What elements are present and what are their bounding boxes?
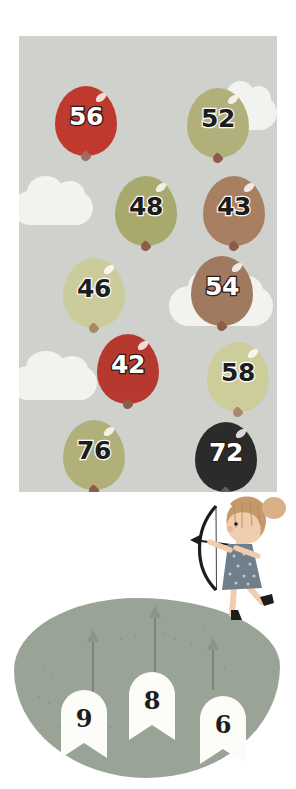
- hair-bun: [262, 497, 286, 519]
- ground-arrow-2-head-icon: [149, 605, 161, 618]
- balloon-52[interactable]: 52: [187, 88, 249, 162]
- balloon-56[interactable]: 56: [55, 86, 117, 160]
- bow-icon: [200, 506, 217, 590]
- balloon-46[interactable]: 46: [63, 258, 125, 332]
- balloon-number: 46: [63, 274, 125, 304]
- boot-back: [231, 610, 242, 620]
- cloud-left-mid-puff-b: [55, 181, 85, 208]
- ground-arrow-2: [154, 616, 156, 672]
- balloon-43[interactable]: 43: [203, 176, 265, 250]
- ground-arrow-3: [212, 648, 214, 690]
- balloon-number: 56: [55, 102, 117, 132]
- ground-speck: [110, 726, 112, 728]
- ground-speck: [174, 638, 176, 640]
- balloon-58[interactable]: 58: [207, 342, 269, 416]
- banner-number: 6: [200, 710, 246, 739]
- balloon-76[interactable]: 76: [63, 420, 125, 492]
- balloon-72[interactable]: 72: [195, 422, 257, 492]
- cheek: [227, 526, 233, 532]
- balloon-number: 72: [195, 438, 257, 468]
- ground-arrow-3-head-icon: [207, 637, 219, 650]
- balloon-48[interactable]: 48: [115, 176, 177, 250]
- arrow-head-icon: [190, 535, 200, 545]
- balloon-42[interactable]: 42: [97, 334, 159, 408]
- banner-9[interactable]: 9: [61, 690, 107, 758]
- banner-6[interactable]: 6: [200, 696, 246, 764]
- sky-panel: 56524843465442587672: [19, 36, 277, 492]
- banner-number: 8: [129, 686, 175, 715]
- balloon-number: 52: [187, 104, 249, 134]
- cloud-right-top-puff-b: [247, 86, 271, 113]
- banner-number: 9: [61, 704, 107, 733]
- archer-girl: [186, 484, 294, 624]
- ground-speck: [38, 696, 40, 698]
- ground-speck: [190, 642, 192, 644]
- balloon-number: 58: [207, 358, 269, 388]
- ground-speck: [134, 634, 136, 636]
- balloon-54[interactable]: 54: [191, 256, 253, 330]
- ground-speck: [44, 668, 46, 670]
- worksheet-scene: 56524843465442587672 986: [0, 0, 296, 789]
- eye: [234, 522, 238, 526]
- ground-speck: [204, 628, 206, 630]
- cloud-left-low: [19, 366, 97, 400]
- balloon-number: 48: [115, 192, 177, 222]
- ground-speck: [48, 702, 50, 704]
- balloon-number: 43: [203, 192, 265, 222]
- archer-girl-figure: [186, 484, 294, 624]
- ground-speck: [52, 674, 54, 676]
- balloon-number: 76: [63, 436, 125, 466]
- balloon-number: 42: [97, 350, 159, 380]
- ground-speck: [120, 638, 122, 640]
- ground-speck: [164, 632, 166, 634]
- balloon-number: 54: [191, 272, 253, 302]
- ground-area: 986: [14, 598, 280, 778]
- cloud-left-low-puff-b: [56, 356, 89, 383]
- ground-arrow-1: [92, 640, 94, 692]
- ground-speck: [58, 726, 60, 728]
- ground-speck: [224, 668, 226, 670]
- banner-8[interactable]: 8: [129, 672, 175, 740]
- arm-front: [210, 542, 230, 550]
- cloud-left-mid: [19, 191, 93, 225]
- ground-arrow-1-head-icon: [87, 629, 99, 642]
- bowstring-icon: [216, 506, 217, 590]
